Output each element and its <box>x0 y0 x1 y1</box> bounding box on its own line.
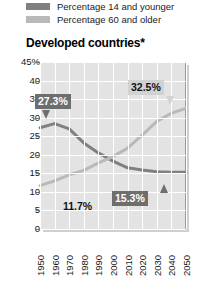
callout-32-5-pointer <box>166 96 174 105</box>
gridline-vertical <box>186 62 187 229</box>
y-axis-tick-label: 40 <box>4 76 40 86</box>
gridline-horizontal <box>40 173 186 174</box>
x-axis: 1950196019701980199020002010202020302040… <box>40 232 190 280</box>
y-axis-tick-label: 5 <box>4 205 40 215</box>
gridline-horizontal <box>40 155 186 156</box>
gridline-horizontal <box>40 81 186 82</box>
x-axis-tick-label: 1970 <box>65 255 75 276</box>
callout-11-7: 11.7% <box>60 199 95 214</box>
y-axis-tick-label: 30 <box>4 113 40 123</box>
y-axis-tick-label: 45% <box>4 57 40 67</box>
y-axis-tick-label: 10 <box>4 187 40 197</box>
callout-27-3-pointer <box>42 110 50 119</box>
x-axis-tick-label: 2030 <box>153 255 163 276</box>
gridline-horizontal <box>40 62 186 63</box>
gridline-vertical <box>40 62 41 229</box>
y-axis-tick-label: 25 <box>4 131 40 141</box>
gridline-vertical <box>55 62 56 229</box>
gridline-horizontal <box>40 229 186 230</box>
x-axis-tick-label: 2000 <box>109 255 119 276</box>
legend-item-young: Percentage 14 and younger <box>26 0 198 13</box>
y-axis-tick-label: 20 <box>4 150 40 160</box>
gridline-horizontal <box>40 136 186 137</box>
callout-15-3: 15.3% <box>112 191 148 206</box>
x-axis-tick-label: 1960 <box>51 255 61 276</box>
y-axis: 45%4035302520151050 <box>0 62 40 229</box>
x-axis-tick-label: 1950 <box>36 255 46 276</box>
x-axis-tick-label: 2040 <box>167 255 177 276</box>
x-axis-tick-label: 1980 <box>80 255 90 276</box>
callout-32-5: 32.5% <box>128 80 164 95</box>
gridline-horizontal <box>40 118 186 119</box>
x-axis-tick-label: 2020 <box>138 255 148 276</box>
callout-15-3-pointer <box>160 184 168 193</box>
x-axis-tick-label: 1990 <box>94 255 104 276</box>
callout-27-3: 27.3% <box>35 94 71 109</box>
legend-label-young: Percentage 14 and younger <box>57 2 174 12</box>
gridline-vertical <box>98 62 99 229</box>
legend-swatch-young <box>26 3 50 10</box>
y-axis-tick-label: 0 <box>4 224 40 234</box>
x-axis-tick-label: 2010 <box>124 255 134 276</box>
gridline-vertical <box>171 62 172 229</box>
legend-item-old: Percentage 60 and older <box>26 13 198 26</box>
x-axis-tick-label: 2050 <box>182 255 192 276</box>
y-axis-tick-label: 15 <box>4 168 40 178</box>
legend-label-old: Percentage 60 and older <box>57 15 161 25</box>
legend-swatch-old <box>26 16 50 23</box>
chart-plot-area: 45%4035302520151050 19501960197019801990… <box>0 52 198 281</box>
chart-title: Developed countries* <box>26 36 145 50</box>
chart-legend: Percentage 14 and younger Percentage 60 … <box>0 0 198 26</box>
